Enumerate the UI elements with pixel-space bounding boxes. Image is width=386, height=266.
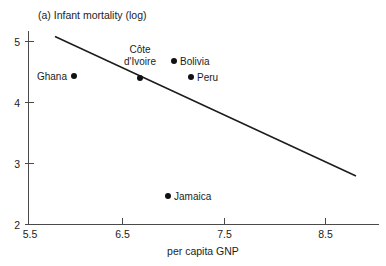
data-label-cote-divoire-line1: Côte [129,44,151,55]
data-label-peru: Peru [197,72,218,83]
y-tick-label-2: 2 [14,219,20,231]
y-tick-label-4: 4 [14,97,20,109]
data-point-bolivia [171,58,177,64]
data-label-ghana: Ghana [37,71,67,82]
x-tick-label-6-5: 6.5 [115,228,130,240]
data-point-ghana [71,73,77,79]
x-axis-title: per capita GNP [167,245,239,257]
x-tick-label-5-5: 5.5 [23,228,38,240]
data-label-jamaica: Jamaica [174,191,212,202]
y-tick-label-5: 5 [14,36,20,48]
x-tick-label-7-5: 7.5 [217,228,232,240]
data-label-bolivia: Bolivia [180,56,210,67]
scatter-plot-canvas: 5 4 3 2 5.5 6.5 7.5 8.5 per capita GNP (… [0,0,386,266]
x-tick-label-8-5: 8.5 [318,228,333,240]
data-point-jamaica [165,193,171,199]
data-point-peru [188,74,194,80]
data-label-cote-divoire-line2: d'Ivoire [124,56,156,67]
data-point-cote-divoire [137,75,143,81]
panel-title: (a) Infant mortality (log) [38,9,147,21]
y-tick-label-3: 3 [14,158,20,170]
chart-figure: 5 4 3 2 5.5 6.5 7.5 8.5 per capita GNP (… [0,0,386,266]
